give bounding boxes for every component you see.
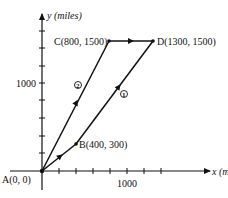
y-tick-label-1000: 1000 <box>16 78 36 89</box>
path-2-line <box>42 41 153 171</box>
path-2-number: 2 <box>76 82 80 90</box>
path-1-marker: 1 <box>121 91 128 99</box>
path-1-number: 1 <box>122 91 126 99</box>
point-B: B(400, 300) <box>74 139 127 151</box>
point-C-label: C(800, 1500) <box>54 36 107 48</box>
point-B-label: B(400, 300) <box>79 139 127 151</box>
point-D: D(1300, 1500) <box>151 36 216 48</box>
arrow-icon <box>128 38 134 44</box>
point-D-label: D(1300, 1500) <box>157 36 216 48</box>
y-axis-label: y (miles) <box>46 10 82 22</box>
x-axis-label: x (miles) <box>211 166 228 178</box>
path-2-marker: 2 <box>75 82 82 90</box>
x-tick-label-1000: 1000 <box>117 178 137 189</box>
path-1-line <box>42 41 153 171</box>
point-C: C(800, 1500) <box>54 36 111 48</box>
route-diagram: 1000 x (miles) 1000 y (miles) <box>0 0 228 198</box>
point-A-label: A(0, 0) <box>2 174 31 186</box>
